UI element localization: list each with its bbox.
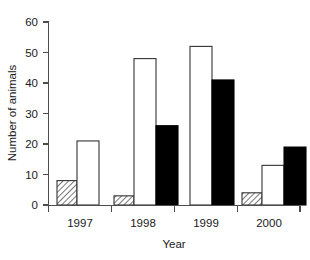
y-tick-label-30: 30 bbox=[25, 108, 38, 120]
y-tick-label-20: 20 bbox=[25, 138, 38, 150]
y-tick-label-60: 60 bbox=[25, 16, 38, 28]
chart-canvas: 0 10 20 30 40 50 60 Number of animals bbox=[0, 0, 310, 260]
bar-1998-filled bbox=[156, 126, 178, 205]
bar-1997-open bbox=[77, 141, 99, 205]
bar-2000-open bbox=[262, 165, 284, 205]
bar-1999-filled bbox=[212, 80, 234, 205]
bar-group-1997 bbox=[57, 141, 99, 205]
bar-1998-hatched bbox=[114, 196, 134, 205]
x-tick-label-1999: 1999 bbox=[193, 217, 219, 229]
y-tick-label-0: 0 bbox=[32, 199, 38, 211]
bar-group-2000 bbox=[242, 147, 306, 205]
bar-2000-hatched bbox=[242, 193, 262, 205]
x-axis-title: Year bbox=[162, 238, 185, 250]
bar-1999-open bbox=[190, 46, 212, 205]
y-axis-ticks bbox=[43, 22, 49, 205]
x-tick-label-2000: 2000 bbox=[256, 217, 282, 229]
x-tick-label-1998: 1998 bbox=[130, 217, 156, 229]
y-tick-label-50: 50 bbox=[25, 47, 38, 59]
bar-1998-open bbox=[134, 59, 156, 205]
y-tick-label-10: 10 bbox=[25, 169, 38, 181]
bar-2000-filled bbox=[284, 147, 306, 205]
bar-group-1999 bbox=[190, 46, 234, 205]
y-tick-label-40: 40 bbox=[25, 77, 38, 89]
bar-chart-figure: 0 10 20 30 40 50 60 Number of animals bbox=[0, 0, 310, 260]
x-tick-label-1997: 1997 bbox=[67, 217, 93, 229]
bar-group-1998 bbox=[114, 59, 178, 205]
y-axis-title: Number of animals bbox=[6, 64, 18, 161]
x-axis-ticks bbox=[49, 206, 301, 213]
bar-1997-hatched bbox=[57, 181, 77, 205]
